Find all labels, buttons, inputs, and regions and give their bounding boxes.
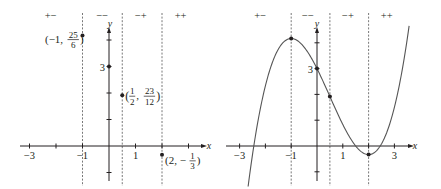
point-label-frac1-num: 1 [130, 86, 135, 96]
x-axis-label: x [412, 140, 418, 151]
x-tick-label: 1 [340, 150, 345, 161]
point-label-frac-num: 25 [69, 30, 79, 40]
data-point [160, 153, 164, 157]
x-tick-label: −3 [24, 150, 35, 161]
x-tick-label: −3 [234, 150, 245, 161]
sign-label: +− [254, 10, 266, 21]
sign-label: +− [45, 10, 57, 21]
x-axis-label: x [206, 140, 212, 151]
y-tick-label: 3 [100, 62, 105, 73]
data-point [120, 93, 124, 97]
point-label-frac1-den: 2 [130, 97, 135, 107]
point-label-paren: ( [125, 89, 129, 103]
point-label: (2, − [165, 154, 186, 167]
sign-label: −+ [342, 10, 354, 21]
sign-label: −− [302, 10, 314, 21]
x-tick-label: 1 [133, 150, 138, 161]
cubic-curve [248, 26, 409, 187]
left-plot-sign-points: +−−−−+++xy−3−113(−1, 256)(12, 2312)(2, −… [20, 10, 212, 186]
data-point [367, 153, 371, 157]
point-label: (−1, [45, 33, 63, 46]
right-plot-cubic-curve: +−−−−+++xy−3−1133 [226, 10, 418, 186]
data-point [328, 95, 332, 99]
sign-label: −+ [135, 10, 147, 21]
point-label-paren: ) [156, 89, 160, 103]
point-label-frac-den: 3 [190, 161, 195, 171]
y-tick-label: 3 [308, 64, 313, 75]
x-tick-label: −1 [77, 150, 88, 161]
data-point [107, 65, 111, 69]
y-axis-label: y [107, 18, 113, 29]
point-label-frac-num: 1 [190, 151, 195, 161]
y-axis-label: y [314, 18, 320, 29]
point-label-frac2-num: 23 [145, 86, 155, 96]
x-tick-label: −1 [286, 150, 297, 161]
data-point [289, 36, 293, 40]
figure: +−−−−+++xy−3−113(−1, 256)(12, 2312)(2, −… [0, 0, 441, 189]
point-label-sep: , [136, 89, 139, 101]
sign-label: ++ [381, 10, 393, 21]
sign-label: ++ [175, 10, 187, 21]
sign-label: −− [96, 10, 108, 21]
point-label-frac-den: 6 [71, 40, 76, 50]
point-label-paren: ) [197, 154, 201, 167]
point-label-paren: ) [80, 33, 84, 46]
data-point [315, 67, 319, 71]
x-tick-label: 3 [392, 150, 397, 161]
point-label-frac2-den: 12 [145, 97, 154, 107]
